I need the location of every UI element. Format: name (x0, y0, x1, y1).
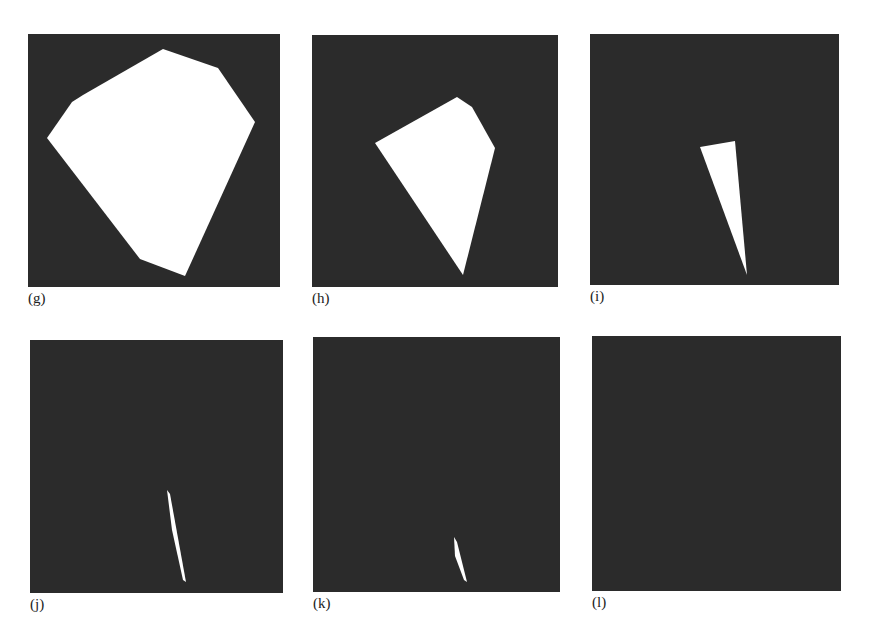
panel-background (313, 337, 560, 592)
panel-image (590, 34, 839, 285)
panel-label-l: (l) (592, 594, 606, 611)
panel-k (313, 337, 560, 592)
panel-j (30, 340, 283, 593)
panel-label-i: (i) (590, 288, 604, 305)
panel-i (590, 34, 839, 285)
panel-image (312, 35, 558, 287)
panel-image (313, 337, 560, 592)
panel-h (312, 35, 558, 287)
panel-label-k: (k) (313, 595, 331, 612)
panel-g (28, 34, 280, 287)
panel-background (30, 340, 283, 593)
panel-image (30, 340, 283, 593)
panel-label-j: (j) (30, 596, 44, 613)
panel-background (592, 336, 841, 591)
panel-label-g: (g) (28, 290, 46, 307)
panel-image (28, 34, 280, 287)
panel-l (592, 336, 841, 591)
panel-image (592, 336, 841, 591)
panel-label-h: (h) (312, 290, 330, 307)
